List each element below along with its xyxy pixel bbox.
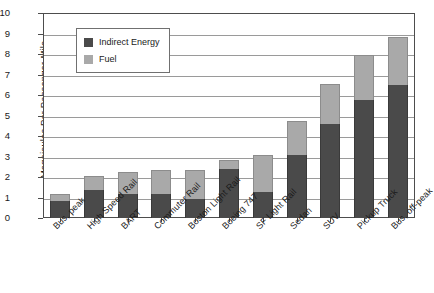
bar-segment-fuel[interactable] — [151, 170, 171, 194]
y-tick-label: 8 — [0, 49, 10, 59]
bar-segment-fuel[interactable] — [287, 121, 307, 155]
legend-item-indirect-energy: Indirect Energy — [84, 34, 163, 51]
bar-segment-fuel[interactable] — [388, 37, 408, 86]
y-tick-label: 5 — [0, 111, 10, 121]
bar-stack[interactable] — [320, 13, 340, 218]
bar-segment-fuel[interactable] — [84, 176, 104, 190]
legend-item-fuel: Fuel — [84, 51, 163, 68]
y-tick-label: 4 — [0, 131, 10, 141]
y-tick-label: 3 — [0, 152, 10, 162]
chart-legend: Indirect Energy Fuel — [76, 28, 170, 73]
legend-swatch-fuel — [84, 55, 93, 64]
bar-segment-fuel[interactable] — [320, 84, 340, 124]
bar-segment-fuel[interactable] — [354, 55, 374, 99]
bar-segment-indirect-energy[interactable] — [354, 100, 374, 218]
y-tick-label: 7 — [0, 70, 10, 80]
bar-stack[interactable] — [354, 13, 374, 218]
legend-label-indirect-energy: Indirect Energy — [99, 38, 160, 47]
y-tick-label: 10 — [0, 8, 10, 18]
y-tick-label: 2 — [0, 172, 10, 182]
legend-label-fuel: Fuel — [99, 55, 117, 64]
legend-swatch-indirect-energy — [84, 38, 93, 47]
bar-segment-fuel[interactable] — [219, 160, 239, 170]
bar-segment-fuel[interactable] — [253, 155, 273, 191]
y-tick-label: 1 — [0, 193, 10, 203]
bar-stack[interactable] — [50, 13, 70, 218]
bar-segment-indirect-energy[interactable] — [320, 124, 340, 218]
bar-stack[interactable] — [253, 13, 273, 218]
y-tick-mark — [38, 218, 43, 219]
y-tick-label: 9 — [0, 29, 10, 39]
y-tick-label: 6 — [0, 90, 10, 100]
y-tick-label: 0 — [0, 213, 10, 223]
